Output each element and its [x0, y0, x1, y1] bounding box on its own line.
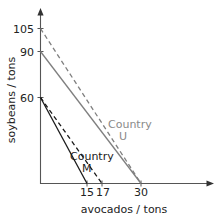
y-axis: [37, 8, 43, 184]
y-tick-label-60: 60: [20, 92, 34, 105]
x-tick-label-15: 15: [80, 186, 94, 199]
y-tick-label-105: 105: [13, 23, 34, 36]
country-m-solid-line: [41, 98, 88, 184]
ppf-chart-canvas: 105 90 60 15 17 30 avocados / tons soybe…: [0, 0, 222, 222]
x-axis-arrowhead: [207, 180, 215, 186]
country-u-label-line2: U: [119, 130, 127, 143]
chart-figure: 105 90 60 15 17 30 avocados / tons soybe…: [0, 0, 222, 222]
x-axis: [41, 180, 215, 186]
y-axis-title: soybeans / tons: [5, 56, 18, 143]
x-tick-label-17: 17: [96, 186, 110, 199]
country-m-label-line2: M: [82, 162, 92, 175]
country-u-label-line1: Country: [108, 118, 152, 131]
country-m-label: Country M: [70, 150, 114, 175]
y-tick-label-90: 90: [20, 46, 34, 59]
country-m-label-line1: Country: [70, 150, 114, 163]
x-tick-label-30: 30: [134, 186, 148, 199]
x-axis-title: avocados / tons: [81, 203, 168, 216]
country-u-label: Country U: [108, 118, 152, 143]
y-axis-arrowhead: [37, 8, 43, 16]
country-m-dashed-line: [41, 98, 103, 184]
